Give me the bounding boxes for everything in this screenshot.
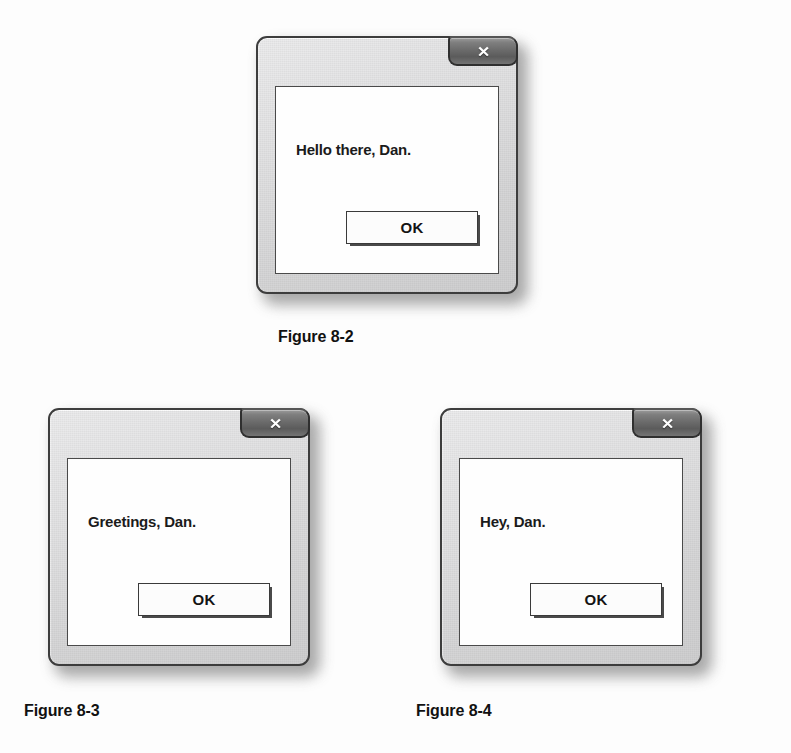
ok-button[interactable]: OK <box>346 211 478 244</box>
close-button[interactable]: ✕ <box>240 408 310 438</box>
dialog-titlebar: ✕ <box>258 38 516 82</box>
dialog-shadow: ✕ Hey, Dan. OK <box>440 408 712 676</box>
figure-8-2-block: ✕ Hello there, Dan. OK Figure 8-2 <box>256 36 532 304</box>
dialog-message-text: Greetings, Dan. <box>88 513 196 530</box>
dialog-client-area: Greetings, Dan. OK <box>67 458 291 646</box>
message-dialog-window: ✕ Hey, Dan. OK <box>440 408 702 666</box>
ok-button-label: OK <box>584 591 607 608</box>
dialog-message-text: Hey, Dan. <box>480 513 545 530</box>
figure-8-3-block: ✕ Greetings, Dan. OK Figure 8-3 <box>48 408 324 676</box>
dialog-shadow: ✕ Hello there, Dan. OK <box>256 36 528 304</box>
close-icon: ✕ <box>660 416 674 431</box>
dialog-message-text: Hello there, Dan. <box>296 141 411 158</box>
close-button[interactable]: ✕ <box>632 408 702 438</box>
figure-8-4-block: ✕ Hey, Dan. OK Figure 8-4 <box>440 408 716 676</box>
message-dialog-window: ✕ Hello there, Dan. OK <box>256 36 518 294</box>
figure-caption: Figure 8-2 <box>278 328 353 346</box>
dialog-shadow: ✕ Greetings, Dan. OK <box>48 408 320 676</box>
scanned-book-page: ✕ Hello there, Dan. OK Figure 8-2 ✕ <box>0 0 791 753</box>
figure-caption: Figure 8-4 <box>416 702 491 720</box>
ok-button-label: OK <box>400 219 423 236</box>
close-icon: ✕ <box>476 44 490 59</box>
close-icon: ✕ <box>268 416 282 431</box>
dialog-client-area: Hello there, Dan. OK <box>275 86 499 274</box>
figure-caption: Figure 8-3 <box>24 702 99 720</box>
ok-button[interactable]: OK <box>530 583 662 616</box>
dialog-titlebar: ✕ <box>442 410 700 454</box>
ok-button[interactable]: OK <box>138 583 270 616</box>
dialog-titlebar: ✕ <box>50 410 308 454</box>
dialog-client-area: Hey, Dan. OK <box>459 458 683 646</box>
ok-button-label: OK <box>192 591 215 608</box>
close-button[interactable]: ✕ <box>448 36 518 66</box>
message-dialog-window: ✕ Greetings, Dan. OK <box>48 408 310 666</box>
